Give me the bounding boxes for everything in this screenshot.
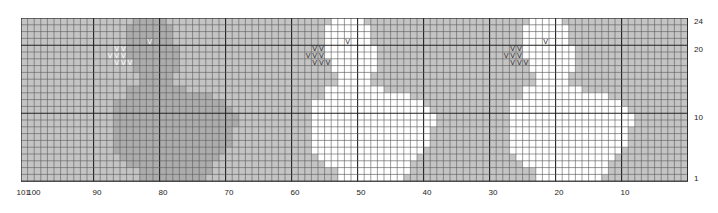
slip-stitch-v-icon: V bbox=[319, 59, 324, 67]
column-label: 30 bbox=[488, 188, 497, 197]
swan-motif-2 bbox=[331, 66, 377, 73]
swan-motif-2 bbox=[325, 25, 371, 32]
swan-motif-2 bbox=[311, 100, 423, 107]
column-label: 80 bbox=[158, 188, 167, 197]
swan-motif-1 bbox=[133, 59, 179, 66]
slip-stitch-v-icon: V bbox=[517, 59, 522, 67]
slip-stitch-v-icon: V bbox=[326, 59, 331, 67]
swan-motif-3 bbox=[523, 161, 609, 168]
swan-motif-1 bbox=[133, 18, 166, 25]
swan-motif-1 bbox=[140, 72, 173, 79]
swan-motif-1 bbox=[133, 66, 179, 73]
slip-stitch-v-icon: V bbox=[121, 59, 126, 67]
slip-stitch-v-icon: V bbox=[114, 59, 119, 67]
swan-motif-2 bbox=[331, 59, 377, 66]
slip-stitch-v-icon: V bbox=[128, 59, 133, 67]
swan-motif-2 bbox=[325, 32, 371, 39]
swan-motif-3 bbox=[536, 168, 609, 175]
slip-stitch-v-icon: V bbox=[504, 52, 509, 60]
slip-stitch-v-icon: V bbox=[312, 59, 317, 67]
swan-motif-1 bbox=[113, 147, 225, 154]
column-label: 60 bbox=[290, 188, 299, 197]
swan-motif-2 bbox=[318, 154, 417, 161]
swan-motif-1 bbox=[127, 161, 213, 168]
slip-stitch-v-icon: V bbox=[543, 38, 548, 46]
swan-motif-1 bbox=[113, 100, 225, 107]
swan-motif-3 bbox=[516, 154, 615, 161]
swan-motif-1 bbox=[113, 113, 238, 120]
column-label: 40 bbox=[422, 188, 431, 197]
swan-motif-2 bbox=[331, 18, 364, 25]
swan-motif-3 bbox=[529, 18, 562, 25]
column-label: 90 bbox=[92, 188, 101, 197]
swan-motif-2 bbox=[338, 72, 371, 79]
knitting-chart-grid: VVVVVVVVVVVVVVVVVVVVVVVVVVV bbox=[21, 18, 688, 182]
swan-motif-2 bbox=[311, 147, 423, 154]
swan-motif-2 bbox=[325, 161, 411, 168]
swan-motif-2 bbox=[325, 86, 384, 93]
column-label: 70 bbox=[224, 188, 233, 197]
swan-motif-2 bbox=[338, 168, 411, 175]
swan-motif-1 bbox=[127, 25, 173, 32]
column-label: 50 bbox=[356, 188, 365, 197]
column-label: 20 bbox=[554, 188, 563, 197]
swan-motif-3 bbox=[509, 147, 621, 154]
swan-motif-2 bbox=[338, 79, 371, 86]
row-label: 1 bbox=[694, 173, 698, 182]
swan-motif-1 bbox=[113, 120, 238, 127]
swan-motif-2 bbox=[311, 113, 436, 120]
swan-motif-1 bbox=[140, 79, 173, 86]
swan-motif-3 bbox=[529, 59, 575, 66]
swan-motif-1 bbox=[127, 93, 213, 100]
slip-stitch-v-icon: V bbox=[345, 38, 350, 46]
swan-motif-2 bbox=[311, 120, 436, 127]
slip-stitch-v-icon: V bbox=[510, 59, 515, 67]
swan-motif-3 bbox=[509, 120, 634, 127]
slip-stitch-v-icon: V bbox=[147, 38, 152, 46]
swan-motif-2 bbox=[325, 93, 411, 100]
swan-motif-3 bbox=[529, 66, 575, 73]
slip-stitch-v-icon: V bbox=[306, 52, 311, 60]
swan-motif-3 bbox=[509, 100, 621, 107]
swan-motif-1 bbox=[127, 86, 186, 93]
swan-motif-3 bbox=[523, 25, 569, 32]
swan-motif-1 bbox=[127, 32, 173, 39]
swan-motif-1 bbox=[140, 168, 213, 175]
slip-stitch-v-icon: V bbox=[524, 59, 529, 67]
swan-motif-1 bbox=[120, 154, 219, 161]
swan-motif-3 bbox=[523, 93, 609, 100]
swan-motif-3 bbox=[523, 32, 569, 39]
slip-stitch-v-icon: V bbox=[108, 52, 113, 60]
swan-motif-3 bbox=[536, 79, 569, 86]
swan-motif-3 bbox=[523, 86, 582, 93]
swan-motif-3 bbox=[536, 72, 569, 79]
row-label: 24 bbox=[694, 17, 703, 26]
column-label: 10 bbox=[620, 188, 629, 197]
row-label: 20 bbox=[694, 44, 703, 53]
swan-motif-3 bbox=[509, 113, 634, 120]
column-label: 100 bbox=[27, 188, 40, 197]
row-label: 10 bbox=[694, 112, 703, 121]
